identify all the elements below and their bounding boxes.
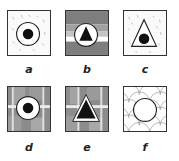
panel-b <box>65 10 109 56</box>
panel-e-label: e <box>65 141 109 154</box>
panel-c-label: c <box>123 63 167 76</box>
grid-triangle-icon <box>66 87 108 131</box>
speckle-triangle-dot-icon <box>124 11 166 55</box>
panel-b-label: b <box>65 63 109 76</box>
panel-f <box>123 86 167 132</box>
banded-circle-triangle-icon <box>66 11 108 55</box>
panel-c <box>123 10 167 56</box>
speckle-circle-dot-icon <box>8 11 50 55</box>
grid-circle-dot-icon <box>8 87 50 131</box>
panel-a <box>7 10 51 56</box>
panel-a-label: a <box>7 63 51 76</box>
panel-e <box>65 86 109 132</box>
panel-d-label: d <box>7 141 51 154</box>
panel-f-label: f <box>123 141 167 154</box>
panel-d <box>7 86 51 132</box>
scallop-circle-icon <box>124 87 166 131</box>
